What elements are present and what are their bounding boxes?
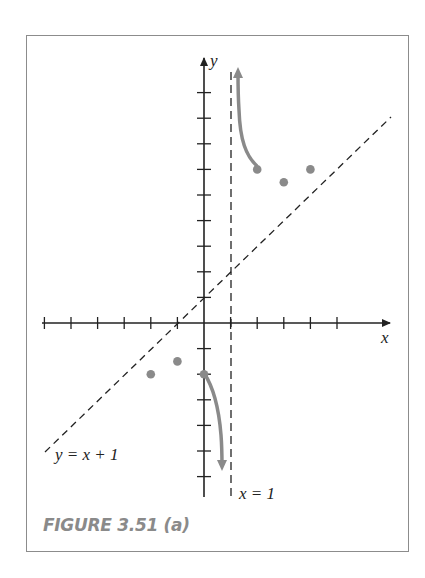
- x-axis-label: x: [380, 328, 389, 347]
- oblique-asymptote: [45, 117, 391, 452]
- figure-caption: FIGURE 3.51 (a): [43, 515, 190, 535]
- data-point: [200, 370, 209, 379]
- data-point: [253, 165, 262, 174]
- data-point: [306, 165, 315, 174]
- y-axis-label: y: [208, 51, 218, 70]
- data-point: [147, 370, 156, 379]
- axis-ticks: [44, 93, 337, 477]
- oblique-asymptote-label: y = x + 1: [53, 445, 119, 464]
- curve-right-branch: [238, 72, 257, 166]
- data-point: [280, 178, 289, 187]
- data-point: [173, 357, 182, 366]
- vertical-asymptote-label: x = 1: [238, 484, 275, 503]
- curve-left-branch: [204, 373, 222, 466]
- plot-area: y x y = x + 1 x = 1: [0, 0, 425, 578]
